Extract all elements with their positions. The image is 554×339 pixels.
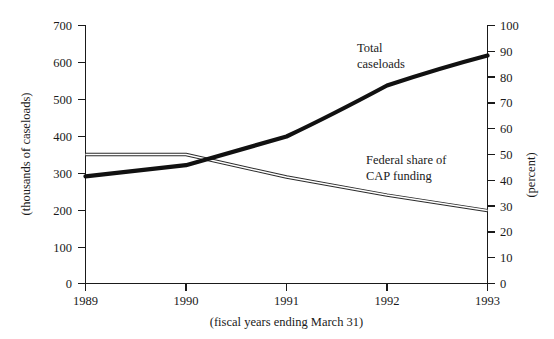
x-tick-label-1992: 1992: [375, 294, 400, 308]
total-caseloads-label-line1: Total: [357, 41, 383, 55]
left-tick-label-500: 500: [53, 93, 72, 107]
x-tick-label-1991: 1991: [274, 294, 299, 308]
federal-share-label-line2: CAP funding: [366, 169, 433, 183]
federal-share-label: Federal share of CAP funding: [366, 153, 447, 183]
right-tick-label-10: 10: [500, 251, 513, 265]
x-axis-tick-labels: 1989 1990 1991 1992 1993: [73, 294, 500, 308]
left-tick-label-600: 600: [53, 56, 72, 70]
left-tick-label-400: 400: [53, 130, 72, 144]
left-tick-label-700: 700: [53, 19, 72, 33]
y-axis-title: (thousands of caseloads): [19, 93, 33, 216]
chart-figure: 700 600 500 400 300 200 100 0 100 90: [0, 0, 554, 339]
right-tick-label-0: 0: [500, 277, 506, 291]
right-tick-label-30: 30: [500, 200, 513, 214]
y2-axis-title: (percent): [524, 152, 538, 197]
x-tick-label-1993: 1993: [475, 294, 500, 308]
left-tick-label-0: 0: [66, 277, 72, 291]
left-tick-label-200: 200: [53, 204, 72, 218]
left-tick-label-100: 100: [53, 241, 72, 255]
x-tick-label-1989: 1989: [73, 294, 98, 308]
right-tick-label-70: 70: [500, 96, 513, 110]
right-tick-label-100: 100: [500, 19, 519, 33]
total-caseloads-label-line2: caseloads: [357, 57, 405, 71]
left-axis-tick-labels: 700 600 500 400 300 200 100 0: [53, 19, 72, 291]
left-axis-ticks: [78, 26, 86, 284]
x-tick-label-1990: 1990: [174, 294, 199, 308]
chart-canvas: 700 600 500 400 300 200 100 0 100 90: [0, 0, 554, 339]
right-axis-tick-labels: 100 90 80 70 60 50 40 30 20 10 0: [500, 19, 519, 291]
x-axis-title: (fiscal years ending March 31): [210, 315, 363, 329]
right-tick-label-60: 60: [500, 122, 513, 136]
federal-share-label-line1: Federal share of: [366, 153, 447, 167]
right-tick-label-20: 20: [500, 225, 513, 239]
right-axis-ticks: [488, 26, 496, 284]
right-tick-label-40: 40: [500, 174, 513, 188]
left-tick-label-300: 300: [53, 167, 72, 181]
right-tick-label-80: 80: [500, 71, 513, 85]
total-caseloads-label: Total caseloads: [357, 41, 405, 71]
x-axis-ticks: [86, 284, 488, 292]
right-tick-label-50: 50: [500, 148, 513, 162]
right-tick-label-90: 90: [500, 45, 513, 59]
